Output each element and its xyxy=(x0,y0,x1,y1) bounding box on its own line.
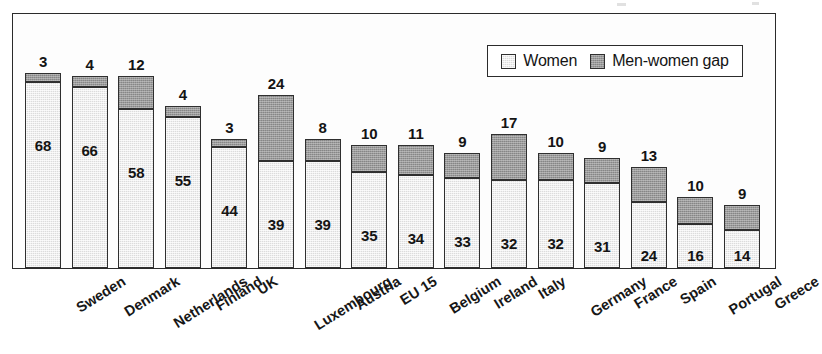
scan-artifact xyxy=(752,2,759,5)
bar-segment-gap xyxy=(491,134,527,181)
bar-segment-gap xyxy=(305,139,341,161)
bar-segment-women xyxy=(398,175,434,268)
x-label-italy: Italy xyxy=(535,273,568,302)
bar-value-gap: 3 xyxy=(21,53,65,70)
bar-segment-gap xyxy=(258,95,294,161)
bar-segment-gap xyxy=(724,205,760,230)
legend-label-men-women-gap: Men-women gap xyxy=(612,52,729,70)
bar-segment-women xyxy=(724,230,760,268)
bar-segment-women xyxy=(118,109,154,268)
legend-item-men-women-gap[interactable]: Men-women gap xyxy=(590,52,729,70)
bar-denmark[interactable]: 664 xyxy=(72,76,108,268)
bar-germany[interactable]: 3210 xyxy=(538,153,574,268)
bar-segment-gap xyxy=(631,167,667,203)
bar-segment-gap xyxy=(25,73,61,81)
bar-segment-women xyxy=(491,180,527,268)
bar-belgium[interactable]: 3411 xyxy=(398,145,434,268)
scan-artifact xyxy=(617,3,626,6)
bar-segment-women xyxy=(165,117,201,268)
bar-segment-women xyxy=(444,178,480,268)
bar-value-gap: 13 xyxy=(627,147,671,164)
bar-eu-15[interactable]: 3510 xyxy=(351,145,387,268)
bar-value-gap: 3 xyxy=(207,119,251,136)
bar-segment-women xyxy=(72,87,108,268)
x-axis-labels: SwedenDenmarkNetherlandsFinlandUKLuxembo… xyxy=(12,269,776,354)
bar-portugal[interactable]: 1610 xyxy=(677,197,713,268)
bar-segment-women xyxy=(258,161,294,268)
bar-value-gap: 11 xyxy=(394,125,438,142)
bar-segment-gap xyxy=(677,197,713,224)
bar-value-gap: 10 xyxy=(673,177,717,194)
bar-segment-gap xyxy=(211,139,247,147)
bar-segment-gap xyxy=(444,153,480,178)
chart-legend: Women Men-women gap xyxy=(487,45,743,77)
bar-segment-women xyxy=(211,147,247,268)
bar-segment-women xyxy=(631,202,667,268)
bar-segment-gap xyxy=(538,153,574,180)
bar-segment-women xyxy=(305,161,341,268)
x-label-spain: Spain xyxy=(677,273,719,307)
legend-swatch-women-icon xyxy=(501,54,516,69)
bar-sweden[interactable]: 683 xyxy=(25,73,61,268)
bar-netherlands[interactable]: 5812 xyxy=(118,76,154,268)
bar-value-gap: 4 xyxy=(68,56,112,73)
legend-label-women: Women xyxy=(523,52,577,70)
bar-value-gap: 9 xyxy=(580,138,624,155)
bar-segment-women xyxy=(677,224,713,268)
bar-segment-women xyxy=(538,180,574,268)
bar-value-gap: 17 xyxy=(487,114,531,131)
bar-value-gap: 9 xyxy=(720,185,764,202)
legend-swatch-gap-icon xyxy=(590,54,605,69)
x-label-eu-15: EU 15 xyxy=(397,273,440,308)
bar-greece[interactable]: 149 xyxy=(724,205,760,268)
bar-segment-gap xyxy=(584,158,620,183)
bar-value-gap: 8 xyxy=(301,119,345,136)
bar-value-gap: 10 xyxy=(534,133,578,150)
bar-value-gap: 24 xyxy=(254,75,298,92)
bar-finland[interactable]: 554 xyxy=(165,106,201,268)
bar-segment-gap xyxy=(72,76,108,87)
bar-segment-women xyxy=(351,172,387,268)
bar-value-gap: 4 xyxy=(161,86,205,103)
x-label-denmark: Denmark xyxy=(121,273,182,319)
bar-value-gap: 10 xyxy=(347,125,391,142)
bar-france[interactable]: 319 xyxy=(584,158,620,268)
legend-item-women[interactable]: Women xyxy=(501,52,577,70)
x-label-sweden: Sweden xyxy=(73,273,128,316)
bar-segment-women xyxy=(584,183,620,268)
bar-italy[interactable]: 3217 xyxy=(491,134,527,268)
bar-austria[interactable]: 398 xyxy=(305,139,341,268)
bar-ireland[interactable]: 339 xyxy=(444,153,480,268)
bar-segment-gap xyxy=(165,106,201,117)
bar-segment-gap xyxy=(398,145,434,175)
bar-uk[interactable]: 443 xyxy=(211,139,247,268)
bar-segment-gap xyxy=(351,145,387,172)
bar-segment-gap xyxy=(118,76,154,109)
bar-segment-women xyxy=(25,82,61,268)
bar-luxembourg[interactable]: 3924 xyxy=(258,95,294,268)
bar-value-gap: 9 xyxy=(440,133,484,150)
bar-value-gap: 12 xyxy=(114,56,158,73)
bar-spain[interactable]: 2413 xyxy=(631,167,667,268)
